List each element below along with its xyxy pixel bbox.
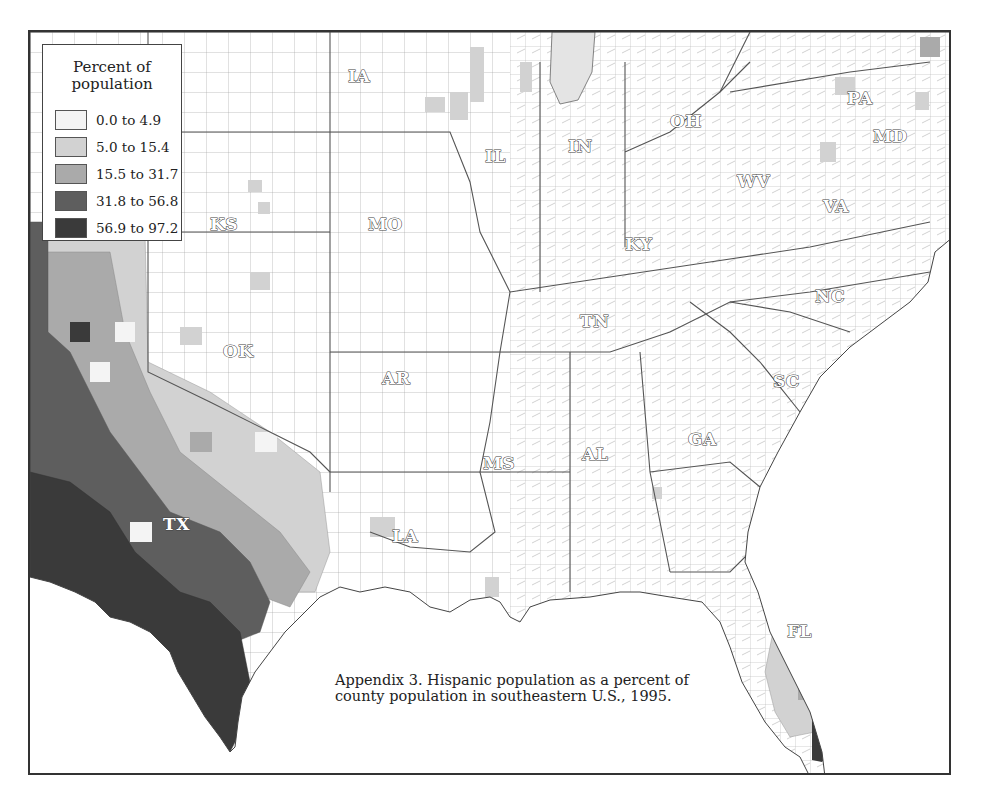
state-label-il: IL xyxy=(485,146,506,166)
state-label-ar: AR xyxy=(381,368,411,388)
legend-swatch-15.5-31.7 xyxy=(55,164,87,184)
legend-swatch-5-15.4 xyxy=(55,137,87,157)
state-label-ks: KS xyxy=(210,214,238,234)
caption-line2: county population in southeastern U.S., … xyxy=(335,688,755,704)
state-label-ia: IA xyxy=(348,66,370,86)
state-label-ky: KY xyxy=(625,234,653,254)
legend-label: 0.0 to 4.9 xyxy=(96,112,161,128)
map-frame: IA IL IN OH PA MD WV VA KS MO KY NC TN O… xyxy=(28,30,951,775)
state-label-oh: OH xyxy=(670,111,702,131)
legend-item: 0.0 to 4.9 xyxy=(55,109,161,131)
legend: Percent of population 0.0 to 4.9 5.0 to … xyxy=(42,44,182,241)
state-label-wv: WV xyxy=(736,171,771,191)
caption-line1: Appendix 3. Hispanic population as a per… xyxy=(335,672,755,688)
legend-item: 31.8 to 56.8 xyxy=(55,190,178,212)
state-label-sc: SC xyxy=(773,371,800,391)
legend-title: Percent of population xyxy=(43,59,181,93)
figure-caption: Appendix 3. Hispanic population as a per… xyxy=(335,672,755,704)
state-label-pa: PA xyxy=(847,88,873,108)
legend-title-line2: population xyxy=(43,76,181,93)
state-label-al: AL xyxy=(581,444,608,464)
legend-label: 56.9 to 97.2 xyxy=(96,220,178,236)
legend-item: 56.9 to 97.2 xyxy=(55,217,178,239)
legend-swatch-31.8-56.8 xyxy=(55,191,87,211)
legend-label: 15.5 to 31.7 xyxy=(96,166,178,182)
legend-swatch-56.9-97.2 xyxy=(55,218,87,238)
legend-label: 31.8 to 56.8 xyxy=(96,193,178,209)
state-label-ok: OK xyxy=(223,341,254,361)
state-label-ms: MS xyxy=(483,453,515,473)
state-label-fl: FL xyxy=(787,621,812,641)
state-label-nc: NC xyxy=(815,286,845,306)
state-label-tx: TX xyxy=(163,514,190,534)
legend-item: 5.0 to 15.4 xyxy=(55,136,170,158)
state-label-in: IN xyxy=(568,136,593,156)
state-label-md: MD xyxy=(873,126,908,146)
state-label-tn: TN xyxy=(580,311,609,331)
legend-title-line1: Percent of xyxy=(43,59,181,76)
legend-label: 5.0 to 15.4 xyxy=(96,139,170,155)
state-label-ga: GA xyxy=(688,429,717,449)
state-label-va: VA xyxy=(822,196,849,216)
state-label-mo: MO xyxy=(368,214,403,234)
legend-item: 15.5 to 31.7 xyxy=(55,163,178,185)
state-label-la: LA xyxy=(392,526,418,546)
legend-swatch-0-4.9 xyxy=(55,110,87,130)
